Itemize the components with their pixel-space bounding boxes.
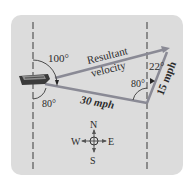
angle-label-80-left: 80° xyxy=(42,98,56,109)
angle-arc-80-right xyxy=(133,88,147,100)
compass-north-label: N xyxy=(90,119,97,130)
angle-label-100: 100° xyxy=(48,52,69,64)
angle-label-80-right: 80° xyxy=(131,78,145,89)
compass-west-label: W xyxy=(71,136,81,147)
boat-icon xyxy=(19,74,50,85)
compass-rose-icon xyxy=(81,129,107,153)
compass-east-label: E xyxy=(108,136,114,147)
vector-diagram: 100° 80° 80° 22° Resultant velocity 30 m… xyxy=(0,0,193,184)
compass-south-label: S xyxy=(90,155,96,166)
resultant-arrowhead-icon xyxy=(161,46,170,53)
